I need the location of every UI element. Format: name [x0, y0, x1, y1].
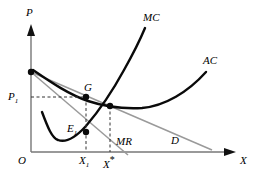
ac-curve-label: AC: [203, 55, 217, 66]
mr-line-label: MR: [116, 136, 132, 147]
diagram-canvas: [0, 0, 259, 175]
point-e1-label: E1: [67, 123, 77, 137]
point-xstar: [107, 103, 113, 109]
qty-x1-label: X1: [79, 155, 89, 169]
economics-diagram: P X O MC AC MR D G E1 P1 X1 X*: [0, 0, 259, 175]
x-axis: [31, 148, 236, 156]
qty-xstar-letter: X: [103, 158, 110, 170]
origin-label: O: [18, 155, 26, 166]
qty-xstar-asterisk: *: [110, 154, 115, 165]
qty-xstar-label: X*: [103, 155, 115, 170]
y-axis: [27, 24, 35, 152]
point-e1-subscript: 1: [74, 129, 78, 137]
demand-line-label: D: [171, 135, 179, 146]
x-axis-label: X: [240, 155, 247, 166]
point-e1-letter: E: [67, 122, 74, 134]
point-intercept: [28, 69, 34, 75]
y-axis-label: P: [26, 7, 33, 18]
qty-x1-subscript: 1: [86, 161, 90, 169]
point-g-label: G: [84, 82, 92, 93]
point-e1: [83, 129, 89, 135]
price-p1-label: P1: [8, 91, 18, 105]
price-p1-letter: P: [8, 90, 15, 102]
marginal-revenue-line: [31, 72, 128, 155]
price-p1-subscript: 1: [15, 97, 19, 105]
point-g: [83, 94, 89, 100]
marginal-cost-curve: [42, 28, 145, 141]
mc-curve-label: MC: [143, 12, 160, 23]
qty-x1-letter: X: [79, 154, 86, 166]
